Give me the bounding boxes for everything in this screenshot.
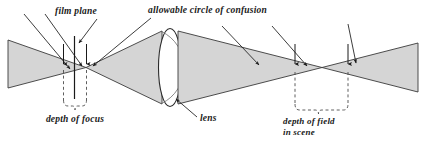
object-side-cone	[178, 31, 418, 104]
object-cone-left-half	[178, 31, 322, 104]
object-cone-right-half	[322, 43, 418, 92]
label-depth-of-field-line1: depth of field	[283, 116, 335, 126]
depth-of-focus-brace	[64, 100, 87, 110]
depth-of-field-markers	[295, 44, 348, 114]
label-allowable-circle-of-confusion: allowable circle of confusion	[148, 5, 267, 15]
leader-line-film-plane	[79, 19, 97, 43]
optics-diagram-figure: film plane allowable circle of confusion…	[0, 0, 426, 142]
depth-of-field-brace	[295, 104, 348, 114]
leader-line-coc-right-c	[348, 24, 356, 63]
label-lens: lens	[200, 113, 217, 123]
label-depth-of-focus: depth of focus	[46, 114, 104, 124]
label-film-plane: film plane	[55, 6, 97, 16]
image-cone-right-half	[86, 31, 162, 104]
label-depth-of-field-line2: in scene	[283, 127, 315, 137]
diagram-canvas: film plane allowable circle of confusion…	[0, 0, 426, 142]
image-side-cone	[8, 31, 162, 104]
